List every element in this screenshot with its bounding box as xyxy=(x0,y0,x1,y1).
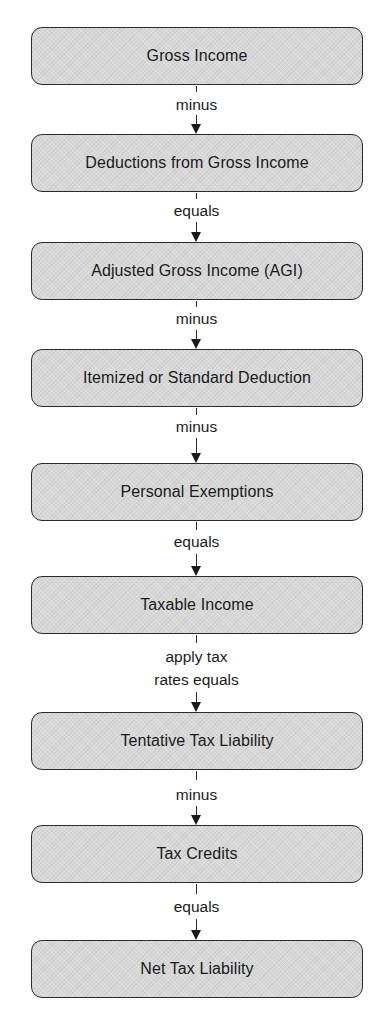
node-label: Taxable Income xyxy=(140,596,253,614)
flow-node-gross-income: Gross Income xyxy=(31,27,363,85)
connector-line xyxy=(196,522,197,530)
flow-node-itemized-or-standard-deduction: Itemized or Standard Deduction xyxy=(31,349,363,407)
arrow-down-icon xyxy=(191,566,201,576)
node-label: Tax Credits xyxy=(156,845,237,863)
flow-node-net-tax-liability: Net Tax Liability xyxy=(31,940,363,998)
edge-label-line-2: rates equals xyxy=(0,670,387,689)
node-label: Net Tax Liability xyxy=(140,960,253,978)
cropped-caption xyxy=(18,1019,387,1029)
connector-line xyxy=(196,884,197,894)
edge-label: minus xyxy=(0,417,387,436)
node-label: Personal Exemptions xyxy=(120,483,273,501)
flow-node-taxable-income: Taxable Income xyxy=(31,576,363,634)
arrow-down-icon xyxy=(191,815,201,825)
node-label: Deductions from Gross Income xyxy=(85,154,308,172)
arrow-down-icon xyxy=(191,124,201,134)
connector-line xyxy=(196,438,197,454)
flow-node-personal-exemptions: Personal Exemptions xyxy=(31,463,363,521)
edge-label: equals xyxy=(0,897,387,916)
edge-label: minus xyxy=(0,95,387,114)
arrow-down-icon xyxy=(191,453,201,463)
flow-node-adjusted-gross-income: Adjusted Gross Income (AGI) xyxy=(31,242,363,300)
arrow-down-icon xyxy=(191,232,201,242)
flow-node-tax-credits: Tax Credits xyxy=(31,825,363,883)
edge-label: equals xyxy=(0,201,387,220)
connector-line xyxy=(196,193,197,199)
node-label: Gross Income xyxy=(147,47,248,65)
edge-label: minus xyxy=(0,785,387,804)
node-label: Adjusted Gross Income (AGI) xyxy=(91,262,303,280)
edge-label: equals xyxy=(0,532,387,551)
arrow-down-icon xyxy=(191,339,201,349)
connector-line xyxy=(196,86,197,92)
connector-line xyxy=(196,301,197,307)
edge-label-line-1: apply tax xyxy=(0,647,387,666)
arrow-down-icon xyxy=(191,930,201,940)
flow-node-deductions-from-gross-income: Deductions from Gross Income xyxy=(31,134,363,192)
connector-line xyxy=(196,408,197,415)
node-label: Itemized or Standard Deduction xyxy=(83,369,311,387)
connector-line xyxy=(196,771,197,780)
arrow-down-icon xyxy=(191,702,201,712)
edge-label: minus xyxy=(0,309,387,328)
node-label: Tentative Tax Liability xyxy=(120,732,273,750)
connector-line xyxy=(196,635,197,643)
flow-node-tentative-tax-liability: Tentative Tax Liability xyxy=(31,712,363,770)
